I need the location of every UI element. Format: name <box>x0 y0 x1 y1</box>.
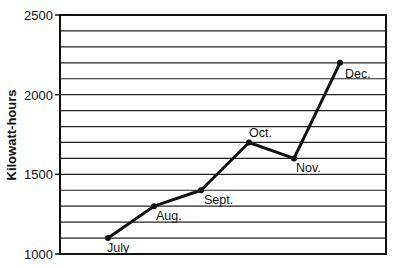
data-series: JulyAug.Sept.Oct.Nov.Dec. <box>105 60 371 255</box>
point-label: July <box>107 241 130 255</box>
y-axis-label: Kilowatt-hours <box>4 90 19 181</box>
point-label: Aug. <box>156 209 182 223</box>
plot-frame <box>60 15 386 254</box>
y-tick-label: 2500 <box>24 8 53 23</box>
y-axis-ticks: 1000150020002500 <box>24 8 60 262</box>
series-line <box>108 63 340 238</box>
point-label: Oct. <box>249 126 272 140</box>
point-label: Nov. <box>296 161 321 175</box>
y-tick-label: 2000 <box>24 88 53 103</box>
axes <box>60 15 386 254</box>
point-label: Dec. <box>345 67 371 81</box>
line-chart: 1000150020002500 Kilowatt-hours JulyAug.… <box>0 0 394 268</box>
y-tick-label: 1000 <box>24 247 53 262</box>
y-tick-label: 1500 <box>24 167 53 182</box>
gridlines <box>60 15 386 254</box>
data-point <box>337 60 343 66</box>
point-label: Sept. <box>204 193 233 207</box>
